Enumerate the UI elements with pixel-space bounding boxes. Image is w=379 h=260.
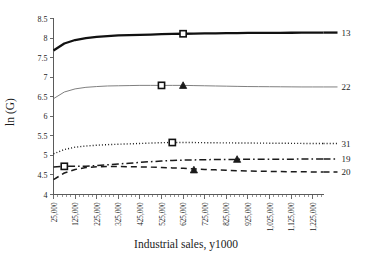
y-tick-label: 7 — [44, 73, 48, 82]
series-marker-square-31 — [169, 139, 175, 145]
series-line-22 — [54, 85, 324, 98]
y-tick-label: 4 — [44, 191, 48, 200]
x-axis-group: 25,000125,000225,000325,000425,000525,00… — [51, 195, 324, 232]
series-label-13[interactable]: 13 — [342, 28, 352, 38]
series-line-20 — [54, 167, 324, 180]
series-label-20[interactable]: 20 — [342, 167, 352, 177]
series-line-31 — [54, 142, 324, 153]
series-marker-square-13 — [180, 31, 186, 37]
series-label-22[interactable]: 22 — [342, 82, 351, 92]
series-label-31[interactable]: 31 — [342, 139, 351, 149]
x-tick-label: 1,125,000 — [288, 202, 296, 231]
chart-figure: 44.555.566.577.588.5 25,000125,000225,00… — [0, 0, 379, 260]
x-tick-label: 1,025,000 — [267, 202, 275, 231]
x-tick-label: 25,000 — [51, 202, 59, 222]
line-chart-canvas: 44.555.566.577.588.5 25,000125,000225,00… — [0, 0, 379, 260]
y-tick-label: 5 — [44, 151, 48, 160]
y-tick-label: 6.5 — [38, 93, 48, 102]
x-tick-label: 225,000 — [94, 202, 102, 226]
series-line-19 — [54, 159, 324, 167]
x-tick-label: 125,000 — [72, 202, 80, 226]
series-labels-group: 1322311920 — [324, 28, 352, 177]
series-group — [54, 31, 324, 180]
y-tick-label: 6 — [44, 112, 48, 121]
series-marker-square-22 — [158, 82, 164, 88]
x-tick-label: 425,000 — [137, 202, 145, 226]
series-marker-square-19 — [61, 163, 67, 169]
series-line-13 — [54, 33, 324, 51]
y-tick-label: 8 — [44, 34, 48, 43]
y-tick-label: 8.5 — [38, 15, 48, 24]
series-label-19[interactable]: 19 — [342, 154, 352, 164]
x-tick-label: 725,000 — [202, 202, 210, 226]
y-axis-group: 44.555.566.577.588.5 — [38, 15, 54, 200]
y-tick-label: 7.5 — [38, 54, 48, 63]
x-tick-label: 1,225,000 — [310, 202, 318, 231]
x-axis-title: Industrial sales, y1000 — [134, 238, 238, 251]
x-tick-label: 325,000 — [115, 202, 123, 226]
x-tick-label: 625,000 — [180, 202, 188, 226]
x-tick-label: 525,000 — [159, 202, 167, 226]
y-tick-label: 5.5 — [38, 132, 48, 141]
y-axis-title: ln (G) — [4, 98, 17, 126]
y-tick-label: 4.5 — [38, 171, 48, 180]
x-tick-label: 825,000 — [223, 202, 231, 226]
x-tick-label: 925,000 — [245, 202, 253, 226]
